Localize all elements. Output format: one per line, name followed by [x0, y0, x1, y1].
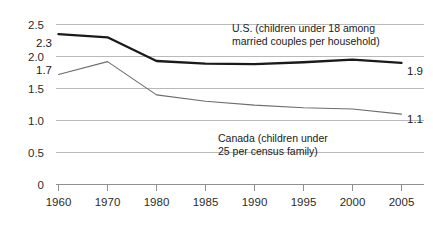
x-axis-tickmarks: [59, 185, 402, 191]
y-tick-label-2.0: 2.0: [28, 51, 44, 63]
x-axis-tick-labels: 1960 1970 1980 1985 1990 1995 2000 2005: [46, 196, 415, 208]
x-tick-label-1995: 1995: [291, 196, 317, 208]
x-tick-label-2000: 2000: [340, 196, 366, 208]
us-annotation-line-1: U.S. (children under 18 among: [232, 22, 375, 34]
x-tick-label-2005: 2005: [389, 196, 415, 208]
y-tick-label-0: 0: [38, 179, 44, 191]
canada-end-value-label: 1.1: [407, 113, 423, 125]
us-annotation-line-2: married couples per household): [232, 35, 380, 47]
us-start-value-label: 2.3: [36, 37, 52, 49]
y-tick-label-1.0: 1.0: [28, 115, 44, 127]
canada-annotation-line-1: Canada (children under: [218, 132, 328, 144]
us-end-value-label: 1.9: [407, 65, 423, 77]
us-annotation: U.S. (children under 18 among married co…: [232, 22, 380, 47]
y-tick-label-2.5: 2.5: [28, 19, 44, 31]
canada-annotation: Canada (children under 25 per census fam…: [218, 132, 328, 157]
x-tick-label-1990: 1990: [242, 196, 268, 208]
x-tick-label-1985: 1985: [193, 196, 219, 208]
line-chart: 2.5 2.0 1.5 1.0 0.5 0 1960 1970 1980 198…: [0, 0, 433, 237]
series-line-canada: [59, 62, 402, 114]
chart-canvas: 2.5 2.0 1.5 1.0 0.5 0 1960 1970 1980 198…: [0, 0, 433, 237]
canada-start-value-label: 1.7: [36, 64, 52, 76]
x-tick-label-1970: 1970: [95, 196, 121, 208]
x-tick-label-1960: 1960: [46, 196, 72, 208]
canada-annotation-line-2: 25 per census family): [218, 145, 318, 157]
y-tick-label-1.5: 1.5: [28, 83, 44, 95]
x-tick-label-1980: 1980: [144, 196, 170, 208]
y-tick-label-0.5: 0.5: [28, 147, 44, 159]
